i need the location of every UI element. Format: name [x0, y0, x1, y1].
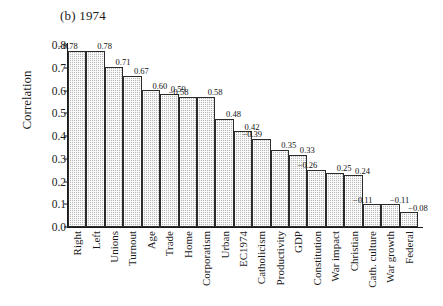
bar-slot: −0.08 [400, 45, 418, 227]
bar-series: −0.780.780.710.670.600.59−0.580.580.480.… [68, 45, 418, 227]
bar-slot: 0.60 [142, 45, 160, 227]
x-label-slot: Trade [160, 229, 178, 305]
x-axis-label: GDP [293, 231, 304, 253]
x-label-slot: Urban [215, 229, 233, 305]
bar: −0.11 [363, 204, 381, 227]
bar: −0.39 [252, 139, 270, 227]
x-axis-label: War impact [330, 231, 341, 282]
bar: 0.42 [234, 131, 252, 227]
bar-value-label: −0.78 [58, 42, 78, 51]
x-axis-line [67, 227, 423, 228]
x-axis-label: War growth [385, 231, 396, 283]
bar-value-label: −0.11 [353, 196, 372, 205]
x-label-slot: War impact [326, 229, 344, 305]
bar: 0.78 [86, 51, 104, 227]
x-axis-label: Cath. culture [366, 231, 377, 288]
bar-slot: 0.71 [105, 45, 123, 227]
x-axis-label: Left [90, 231, 101, 249]
x-axis-label: Right [72, 231, 83, 255]
x-label-slot: Christian [344, 229, 362, 305]
figure-bar-chart-1974: (b) 1974 Correlation 0.00.10.20.30.40.50… [0, 0, 443, 306]
x-label-slot: Federal [400, 229, 418, 305]
bar: 0.25 [326, 173, 344, 227]
bar-slot: −0.39 [252, 45, 270, 227]
bar: 0.71 [105, 67, 123, 227]
x-label-slot: GDP [289, 229, 307, 305]
bar-slot: 0.67 [123, 45, 141, 227]
x-label-slot: Unions [105, 229, 123, 305]
x-label-slot: Corporatism [197, 229, 215, 305]
bar: −0.78 [68, 51, 86, 227]
bar: 0.35 [271, 150, 289, 227]
bar-slot: 0.48 [215, 45, 233, 227]
bar-slot: −0.11 [381, 45, 399, 227]
x-axis-label: Unions [109, 231, 120, 263]
y-axis-title: Correlation [19, 40, 35, 160]
bar-slot: 0.35 [271, 45, 289, 227]
x-axis-label: EC1974 [238, 231, 249, 267]
x-axis-label: Trade [164, 231, 175, 256]
x-label-slot: War growth [381, 229, 399, 305]
x-axis-label: Turnout [127, 231, 138, 266]
x-axis-label: Christian [348, 231, 359, 271]
x-axis-label: Urban [219, 231, 230, 259]
bar-slot: 0.59 [160, 45, 178, 227]
bar: 0.59 [160, 94, 178, 227]
x-label-slot: Right [68, 229, 86, 305]
bar: 0.60 [142, 90, 160, 227]
bar-value-label: −0.26 [298, 161, 318, 170]
x-label-slot: Catholicism [252, 229, 270, 305]
chart-title: (b) 1974 [60, 8, 106, 24]
x-axis-label: Federal [403, 231, 414, 264]
bar-slot: −0.78 [68, 45, 86, 227]
bar-slot: 0.33 [289, 45, 307, 227]
bar: 0.58 [197, 97, 215, 227]
x-label-slot: Home [179, 229, 197, 305]
bar-slot: −0.58 [179, 45, 197, 227]
x-axis-label: Age [145, 231, 156, 249]
bar-slot: 0.58 [197, 45, 215, 227]
bar: 0.67 [123, 76, 141, 227]
bar-slot: 0.25 [326, 45, 344, 227]
x-axis-label: Catholicism [256, 231, 267, 284]
bar: −0.08 [400, 212, 418, 227]
bar-value-label: −0.58 [169, 88, 189, 97]
x-axis-label: Home [182, 231, 193, 258]
bar-slot: −0.11 [363, 45, 381, 227]
x-axis-category-labels: RightLeftUnionsTurnoutAgeTradeHomeCorpor… [68, 229, 418, 305]
x-label-slot: Constitution [307, 229, 325, 305]
x-axis-label: Productivity [274, 231, 285, 285]
bar: −0.58 [179, 97, 197, 227]
x-label-slot: Cath. culture [363, 229, 381, 305]
bar-value-label: −0.08 [408, 204, 428, 213]
bar: −0.26 [307, 170, 325, 227]
x-label-slot: EC1974 [234, 229, 252, 305]
bar-slot: −0.26 [307, 45, 325, 227]
bar-value-label: −0.39 [242, 130, 262, 139]
x-label-slot: Turnout [123, 229, 141, 305]
x-label-slot: Productivity [271, 229, 289, 305]
bar-slot: 0.78 [86, 45, 104, 227]
plot-area: −0.780.780.710.670.600.59−0.580.580.480.… [68, 45, 418, 227]
x-label-slot: Left [86, 229, 104, 305]
x-axis-label: Constitution [311, 231, 322, 285]
x-axis-label: Corporatism [201, 231, 212, 286]
x-label-slot: Age [142, 229, 160, 305]
bar: 0.48 [215, 119, 233, 227]
bar: −0.11 [381, 204, 399, 227]
